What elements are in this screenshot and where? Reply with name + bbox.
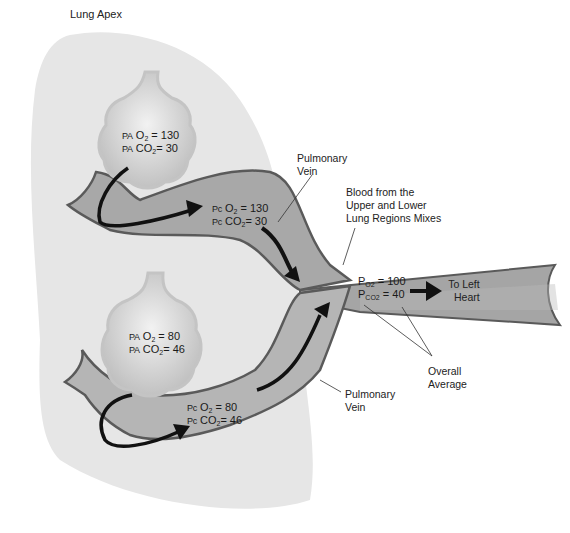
lung-diagram bbox=[0, 0, 570, 533]
overall-average-label: Overall Average bbox=[428, 365, 467, 391]
mixed-blood-gas: PO2 = 100 PCO2 = 40 bbox=[358, 275, 406, 301]
leader-mixing bbox=[343, 228, 355, 265]
lung-apex-label: Lung Apex bbox=[70, 8, 122, 21]
upper-capillary-gas: Pc O2 = 130 Pc CO2= 30 bbox=[212, 202, 268, 228]
to-left-heart-label: To Left Heart bbox=[446, 278, 480, 304]
leader-lower-vein bbox=[320, 380, 341, 392]
lower-capillary-gas: Pc O2 = 80 Pc CO2= 46 bbox=[187, 401, 242, 427]
mixing-label: Blood from the Upper and Lower Lung Regi… bbox=[346, 186, 441, 225]
pulmonary-vein-upper-label: Pulmonary Vein bbox=[297, 152, 347, 178]
pulmonary-vein-lower-label: Pulmonary Vein bbox=[345, 388, 395, 414]
lower-alveolus-gas: PA O2 = 80 PA CO2= 46 bbox=[129, 330, 185, 356]
upper-alveolus-gas: PA O2 = 130 PA CO2= 30 bbox=[122, 129, 179, 155]
